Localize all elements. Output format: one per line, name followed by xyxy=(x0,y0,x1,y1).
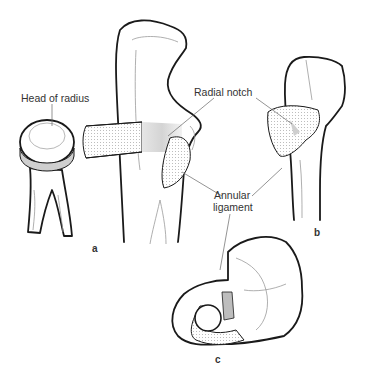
ulna-lateral-illustration xyxy=(268,57,345,220)
panel-label-a: a xyxy=(92,243,98,254)
label-annular-ligament-line2: ligament xyxy=(213,201,253,213)
label-head-of-radius: Head of radius xyxy=(21,92,89,104)
ulna-anterior-illustration xyxy=(83,20,201,244)
panel-label-b: b xyxy=(314,227,320,238)
panel-label-c: c xyxy=(215,354,221,365)
diagram-canvas xyxy=(0,0,366,382)
radioulnar-ring-illustration xyxy=(172,237,302,345)
label-radial-notch: Radial notch xyxy=(194,86,252,98)
radius-head-illustration xyxy=(20,120,74,236)
label-annular-ligament-line1: Annular xyxy=(214,189,250,201)
